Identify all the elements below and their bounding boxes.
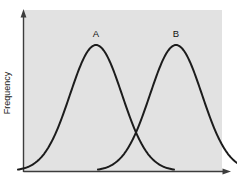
curve-a-label: A bbox=[90, 28, 102, 39]
y-axis-label-text: Frequency bbox=[2, 72, 12, 115]
plot-background bbox=[24, 10, 222, 171]
distribution-chart bbox=[0, 0, 237, 186]
y-axis-label: Frequency bbox=[0, 0, 14, 186]
chart-figure: Frequency A B bbox=[0, 0, 237, 186]
x-axis-arrow-icon bbox=[223, 169, 232, 175]
curve-b-label: B bbox=[170, 28, 182, 39]
